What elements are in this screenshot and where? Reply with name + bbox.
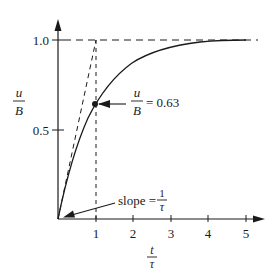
y-axis-label-denominator: B	[15, 103, 23, 118]
point-label: u B = 0.63	[131, 85, 179, 118]
guide-lines	[58, 40, 258, 219]
y-axis-label: u B	[13, 85, 25, 118]
exponential-response-diagram: 1.0 0.5 1 2 3 4 5 u B = 0.63 slope =	[0, 0, 277, 279]
y-ticks: 1.0 0.5	[33, 33, 64, 138]
y-tick-label-0.5: 0.5	[33, 123, 49, 138]
point-marker	[92, 101, 98, 107]
y-axis-arrow-icon	[55, 19, 62, 31]
x-axis-label-denominator: τ	[150, 257, 155, 271]
x-tick-label-4: 4	[205, 226, 212, 241]
point-label-value: = 0.63	[146, 95, 179, 110]
x-tick-label-5: 5	[243, 226, 250, 241]
slope-label: slope = 1 τ	[118, 187, 167, 214]
x-tick-label-1: 1	[93, 226, 100, 241]
x-tick-label-3: 3	[168, 226, 175, 241]
point-label-denominator: B	[133, 103, 141, 118]
y-tick-label-1.0: 1.0	[33, 33, 49, 48]
x-axis-label: t τ	[147, 243, 157, 271]
point-label-numerator: u	[134, 85, 141, 100]
x-axis-arrow-icon	[253, 216, 265, 223]
y-axis-label-numerator: u	[16, 85, 23, 100]
point-arrow-head-icon	[98, 100, 110, 108]
slope-arrow	[68, 203, 115, 216]
slope-label-prefix: slope =	[118, 193, 156, 208]
slope-label-denominator: τ	[160, 200, 165, 214]
slope-label-numerator: 1	[159, 187, 165, 199]
slope-arrow-head-icon	[63, 211, 75, 218]
x-tick-label-2: 2	[130, 226, 137, 241]
x-axis-label-numerator: t	[150, 243, 154, 257]
